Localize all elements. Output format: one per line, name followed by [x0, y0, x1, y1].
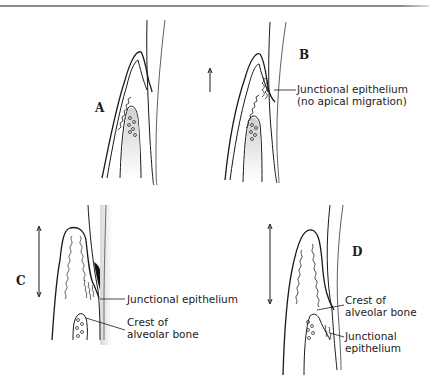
- annotation-b-junctional-epithelium: Junctional epithelium (no apical migrati…: [297, 83, 408, 107]
- annotation-d-junctional-epithelium: Junctional epithelium: [345, 330, 401, 354]
- panel-d-bone-marrow: [307, 321, 315, 340]
- annotation-c-junctional-epithelium: Junctional epithelium: [127, 293, 238, 305]
- panel-d-crest-leader: [317, 305, 344, 310]
- panel-label-a: A: [95, 101, 104, 115]
- annotation-c-crest-of-alveolar-bone: Crest of alveolar bone: [127, 316, 199, 340]
- panel-c-bone-marrow: [76, 319, 84, 338]
- panel-d-drawing: [283, 205, 343, 375]
- panel-label-c: C: [16, 274, 26, 288]
- panel-label-d: D: [352, 245, 362, 259]
- panel-b-arrow: [208, 68, 212, 92]
- panel-a-bone-stipple: [121, 108, 140, 178]
- panel-d-arrow: [268, 224, 272, 304]
- panel-c-arrow: [37, 226, 41, 297]
- panel-label-b: B: [299, 48, 309, 62]
- annotation-d-crest-of-alveolar-bone: Crest of alveolar bone: [345, 294, 417, 318]
- panel-d-junctional-leader: [330, 333, 344, 337]
